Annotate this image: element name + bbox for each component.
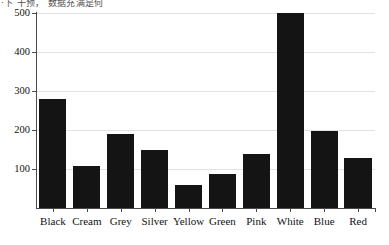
x-axis-tick-labels: BlackCreamGreySilverYellowGreenPinkWhite…	[36, 214, 375, 234]
x-tick-label: Red	[341, 214, 375, 228]
y-axis-tick-labels: 100200300400500	[0, 0, 30, 245]
x-tick-label: Yellow	[172, 214, 206, 228]
x-tick-mark	[358, 208, 359, 212]
bar	[73, 166, 100, 208]
plot-area	[36, 13, 375, 208]
x-tick-mark	[53, 208, 54, 212]
x-axis-end-tick	[375, 208, 376, 212]
bar	[141, 150, 168, 209]
bar-chart: 100200300400500 BlackCreamGreySilverYell…	[0, 0, 389, 245]
x-tick-mark	[121, 208, 122, 212]
y-tick-label: 100	[0, 164, 30, 174]
x-tick-mark	[256, 208, 257, 212]
x-tick-label: Silver	[138, 214, 172, 228]
bar	[311, 131, 338, 208]
x-tick-mark	[290, 208, 291, 212]
bar	[209, 174, 236, 208]
x-tick-mark	[87, 208, 88, 212]
x-tick-mark	[324, 208, 325, 212]
x-tick-mark	[189, 208, 190, 212]
x-tick-label: Black	[36, 214, 70, 228]
bar	[175, 185, 202, 208]
bar	[277, 13, 304, 208]
y-tick-label: 200	[0, 125, 30, 135]
bar	[344, 158, 371, 208]
y-tick-label: 500	[0, 8, 30, 18]
bar	[107, 134, 134, 208]
bar	[39, 99, 66, 208]
x-tick-mark	[155, 208, 156, 212]
chart-screenshot: ·下 干预， 数据充满是何 100200300400500 BlackCream…	[0, 0, 389, 245]
x-tick-label: White	[273, 214, 307, 228]
x-tick-mark	[222, 208, 223, 212]
x-tick-label: Green	[206, 214, 240, 228]
y-tick-label: 400	[0, 47, 30, 57]
y-tick-label: 300	[0, 86, 30, 96]
x-tick-label: Grey	[104, 214, 138, 228]
bar	[243, 154, 270, 208]
x-tick-label: Pink	[239, 214, 273, 228]
x-tick-label: Blue	[307, 214, 341, 228]
x-tick-label: Cream	[70, 214, 104, 228]
